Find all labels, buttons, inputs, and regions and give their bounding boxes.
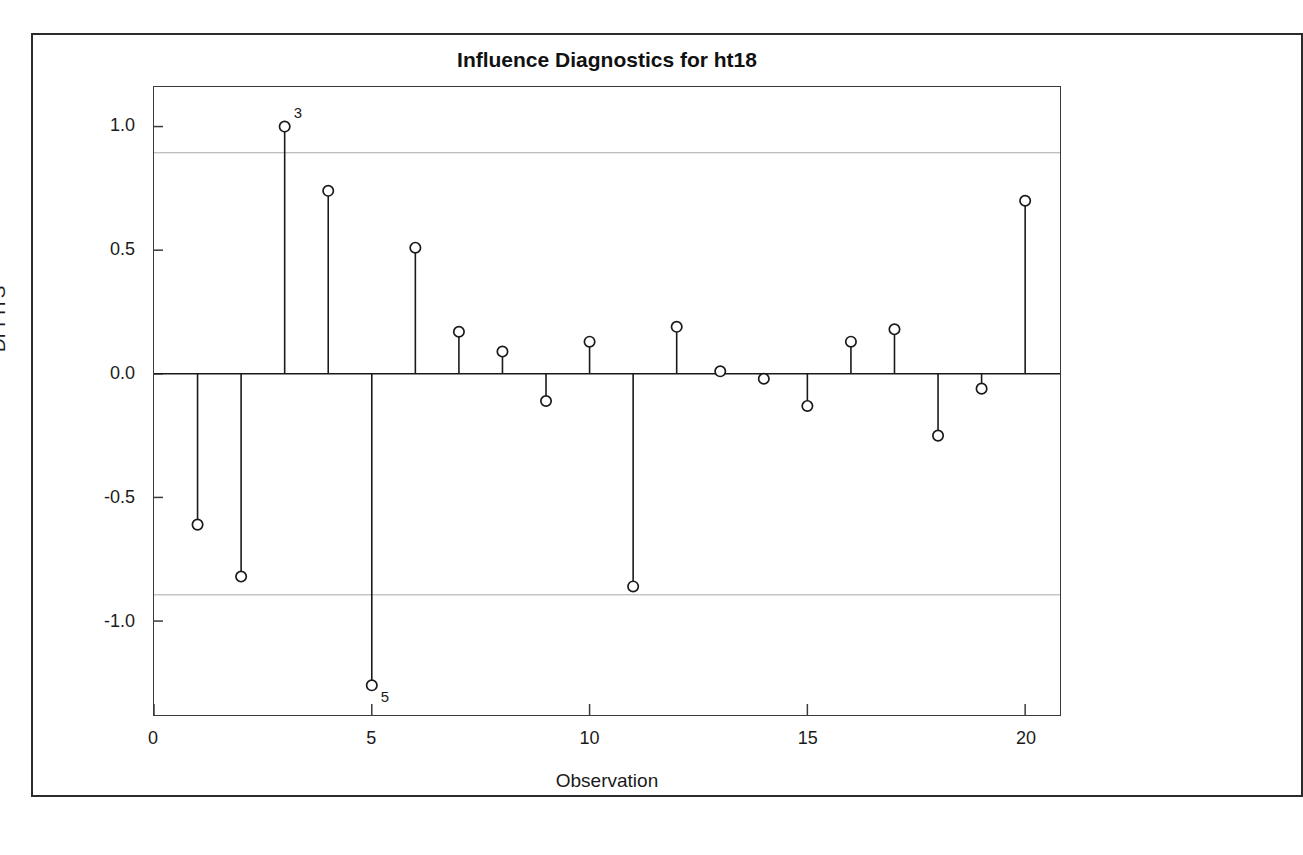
data-point-marker[interactable] xyxy=(323,186,333,196)
y-axis-tick-labels: 1.00.50.0-0.5-1.0 xyxy=(55,86,135,716)
data-point-marker[interactable] xyxy=(715,366,725,376)
chart-title: Influence Diagnostics for ht18 xyxy=(153,48,1061,72)
x-tick-label: 0 xyxy=(148,728,158,749)
y-tick-label: 0.0 xyxy=(110,363,135,384)
y-tick-label: 0.5 xyxy=(110,239,135,260)
x-axis-tick-labels: 05101520 xyxy=(153,728,1061,754)
x-tick-label: 20 xyxy=(1016,728,1036,749)
data-point-marker[interactable] xyxy=(802,401,812,411)
data-point-marker[interactable] xyxy=(1020,196,1030,206)
data-point-marker[interactable] xyxy=(279,121,289,131)
data-point-marker[interactable] xyxy=(497,346,507,356)
data-point-marker[interactable] xyxy=(192,519,202,529)
x-tick-label: 10 xyxy=(580,728,600,749)
data-point-marker[interactable] xyxy=(759,374,769,384)
y-tick-label: 1.0 xyxy=(110,115,135,136)
x-axis-title: Observation xyxy=(153,770,1061,792)
data-point-marker[interactable] xyxy=(410,243,420,253)
y-tick-label: -0.5 xyxy=(104,487,135,508)
plot-svg: 35 xyxy=(154,87,1060,715)
y-axis-title: DFFITS xyxy=(0,286,10,353)
data-point-marker[interactable] xyxy=(236,571,246,581)
data-point-marker[interactable] xyxy=(628,581,638,591)
data-point-marker[interactable] xyxy=(454,327,464,337)
x-tick-label: 15 xyxy=(798,728,818,749)
data-point-marker[interactable] xyxy=(976,383,986,393)
x-tick-label: 5 xyxy=(366,728,376,749)
data-point-marker[interactable] xyxy=(541,396,551,406)
data-point-marker[interactable] xyxy=(889,324,899,334)
point-label: 3 xyxy=(294,104,302,121)
data-point-marker[interactable] xyxy=(933,430,943,440)
y-tick-label: -1.0 xyxy=(104,611,135,632)
data-point-marker[interactable] xyxy=(367,680,377,690)
data-point-marker[interactable] xyxy=(672,322,682,332)
plot-area: 35 xyxy=(153,86,1061,716)
data-point-marker[interactable] xyxy=(846,336,856,346)
data-point-marker[interactable] xyxy=(584,336,594,346)
point-label: 5 xyxy=(381,688,389,705)
